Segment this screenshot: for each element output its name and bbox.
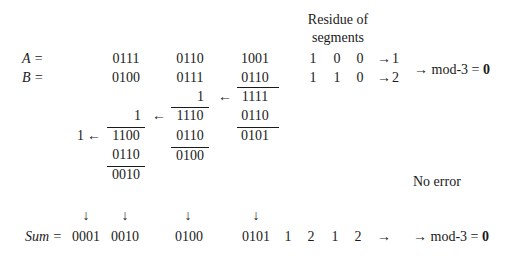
label-b: B = [22, 70, 44, 86]
down-arrow-icon-4: ↓ [253, 208, 260, 224]
sum-segment-1: 0001 [72, 229, 100, 245]
mod3-value: 0 [483, 62, 490, 77]
mod3-result-top: → mod-3 = 0 [414, 62, 490, 78]
col1-correction: 0110 [112, 147, 139, 163]
col3-correction: 0110 [241, 108, 268, 124]
mod3-value: 0 [482, 229, 489, 244]
a-segment-1: 0111 [113, 51, 140, 67]
col1-result: 0010 [112, 167, 140, 183]
col1-sum: 1100 [112, 128, 139, 144]
down-arrow-icon-3: ↓ [185, 208, 192, 224]
a-right-arrow-icon: → [377, 51, 391, 67]
col3-sum-rule [237, 87, 279, 88]
b-residue-digit-1: 1 [310, 70, 317, 86]
col3-sum: 1111 [242, 89, 268, 105]
sum-residue-digit-4: 2 [355, 229, 362, 245]
sum-label: Sum = [25, 229, 62, 245]
a-segment-2: 0110 [176, 51, 203, 67]
residue-header-line1: Residue of [308, 12, 368, 28]
down-arrow-icon-1: ↓ [83, 208, 90, 224]
down-arrow-icon-2: ↓ [122, 208, 129, 224]
b-segment-3: 0110 [241, 70, 268, 86]
mod3-result-bottom: → mod-3 = 0 [413, 229, 489, 245]
col1-carry-in: 1 [134, 108, 141, 124]
carry-left-arrow-icon-3: ← [87, 128, 101, 144]
b-residue: 2 [392, 70, 399, 86]
sum-residue-digit-1: 1 [285, 229, 292, 245]
status-text: No error [413, 174, 461, 190]
sum-segment-4: 0101 [242, 229, 270, 245]
b-residue-digit-3: 0 [357, 70, 364, 86]
mod3-prefix: → mod-3 = [414, 62, 483, 77]
sum-right-arrow-icon: → [377, 229, 391, 245]
residue-header-line2: segments [312, 30, 364, 46]
b-residue-digit-2: 1 [334, 70, 341, 86]
sum-residue-digit-2: 2 [308, 229, 315, 245]
a-residue: 1 [392, 51, 399, 67]
sum-segment-3: 0100 [175, 229, 203, 245]
carry-out: 1 [77, 128, 84, 144]
b-right-arrow-icon: → [377, 70, 391, 86]
carry-left-arrow-icon-1: ← [218, 89, 232, 105]
col2-carry-in: 1 [197, 89, 204, 105]
col2-sum: 1110 [177, 108, 204, 124]
col2-correction: 0110 [176, 128, 203, 144]
a-residue-digit-1: 1 [310, 51, 317, 67]
carry-left-arrow-icon-2: ← [152, 108, 166, 124]
a-segment-3: 1001 [241, 51, 269, 67]
sum-segment-2: 0010 [111, 229, 139, 245]
b-segment-1: 0100 [112, 70, 140, 86]
col2-result: 0100 [176, 148, 204, 164]
col3-result: 0101 [241, 128, 269, 144]
mod3-prefix: → mod-3 = [413, 229, 482, 244]
b-segment-2: 0111 [177, 70, 204, 86]
sum-residue-digit-3: 1 [332, 229, 339, 245]
label-a: A = [22, 51, 43, 67]
a-residue-digit-2: 0 [334, 51, 341, 67]
a-residue-digit-3: 0 [357, 51, 364, 67]
